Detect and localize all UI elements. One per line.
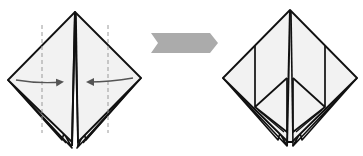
- step-after-figure: [223, 10, 357, 146]
- origami-diagram: Origami fold step: [0, 0, 363, 156]
- step-before-figure: [8, 12, 141, 148]
- step-arrow-icon: [151, 33, 218, 53]
